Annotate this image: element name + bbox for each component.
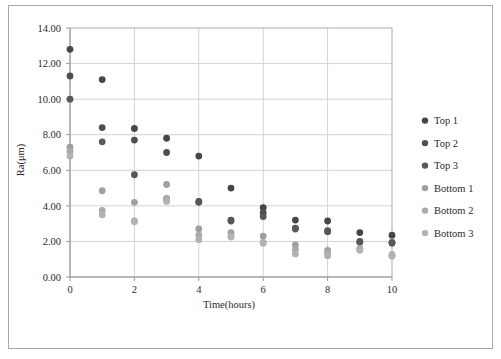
data-point	[292, 250, 299, 257]
data-point	[163, 135, 170, 142]
y-axis-tick-labels: 0.002.004.006.008.0010.0012.0014.00	[37, 23, 61, 283]
data-point	[260, 233, 267, 240]
data-point	[67, 96, 74, 103]
data-point	[292, 226, 299, 233]
legend-item-label[interactable]: Top 1	[434, 115, 458, 126]
chart-figure: 0.002.004.006.008.0010.0012.0014.00 0246…	[0, 0, 501, 359]
x-tick-label: 8	[325, 284, 330, 295]
series-top-3	[67, 96, 396, 247]
legend-item-label[interactable]: Top 2	[434, 138, 458, 149]
data-point	[324, 218, 331, 225]
data-point	[195, 153, 202, 160]
data-point	[67, 153, 74, 160]
data-point	[163, 181, 170, 188]
data-point	[99, 211, 106, 218]
data-point	[99, 124, 106, 131]
data-point	[389, 253, 396, 260]
data-point	[389, 240, 396, 247]
data-point	[228, 218, 235, 225]
data-points	[67, 46, 396, 259]
legend-item-label[interactable]: Top 3	[434, 160, 458, 171]
legend-marker-icon	[422, 117, 428, 123]
y-tick-label: 12.00	[37, 58, 61, 69]
legend-item-label[interactable]: Bottom 2	[434, 205, 473, 216]
data-point	[195, 236, 202, 243]
data-point	[356, 247, 363, 254]
x-axis-title: Time(hours)	[203, 299, 256, 311]
data-point	[260, 213, 267, 220]
data-point	[131, 171, 138, 178]
x-tick-label: 6	[261, 284, 266, 295]
legend-item-label[interactable]: Bottom 3	[434, 228, 473, 239]
x-tick-label: 4	[196, 284, 202, 295]
data-point	[131, 199, 138, 206]
data-point	[195, 226, 202, 233]
data-point	[292, 217, 299, 224]
legend-marker-icon	[422, 140, 428, 146]
data-point	[131, 218, 138, 225]
y-tick-label: 10.00	[37, 94, 61, 105]
series-top-1	[67, 46, 396, 239]
data-point	[356, 239, 363, 246]
data-point	[324, 252, 331, 259]
x-tick-label: 2	[132, 284, 137, 295]
data-point	[67, 46, 74, 53]
y-tick-label: 6.00	[43, 165, 61, 176]
data-point	[131, 137, 138, 144]
data-point	[99, 76, 106, 83]
x-axis-tick-labels: 0246810	[67, 284, 397, 295]
scatter-chart: 0.002.004.006.008.0010.0012.0014.00 0246…	[0, 0, 501, 359]
data-point	[389, 232, 396, 239]
legend-marker-icon	[422, 162, 428, 168]
data-point	[99, 187, 106, 194]
legend-marker-icon	[422, 230, 428, 236]
x-tick-label: 0	[67, 284, 72, 295]
legend-marker-icon	[422, 207, 428, 213]
y-tick-label: 14.00	[37, 23, 61, 34]
data-point	[228, 234, 235, 241]
data-point	[163, 149, 170, 156]
legend-marker-icon	[422, 185, 428, 191]
y-tick-label: 8.00	[43, 129, 61, 140]
y-axis-title: Ra(μm)	[15, 143, 27, 176]
data-point	[228, 185, 235, 192]
x-tick-label: 10	[387, 284, 398, 295]
y-tick-label: 2.00	[43, 236, 61, 247]
data-point	[260, 240, 267, 247]
data-point	[356, 229, 363, 236]
data-point	[99, 138, 106, 145]
legend-item-label[interactable]: Bottom 1	[434, 183, 473, 194]
data-point	[67, 73, 74, 80]
y-tick-label: 4.00	[43, 201, 61, 212]
data-point	[195, 199, 202, 206]
data-point	[324, 228, 331, 235]
chart-axes	[66, 28, 392, 281]
y-tick-label: 0.00	[43, 272, 61, 283]
data-point	[131, 125, 138, 132]
series-bottom-2	[67, 148, 396, 259]
chart-legend: Top 1Top 2Top 3Bottom 1Bottom 2Bottom 3	[422, 115, 474, 239]
data-point	[163, 198, 170, 205]
